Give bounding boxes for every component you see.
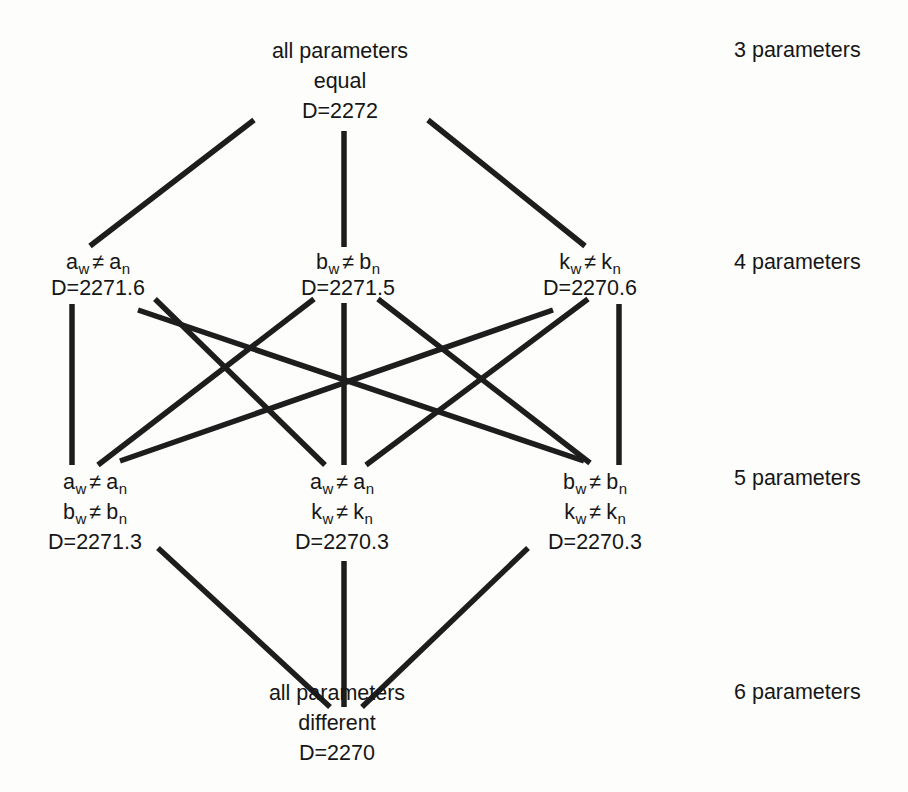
node-4param-k: kw≠kn D=2270.6 [543, 250, 637, 300]
edge-top-p4a [90, 120, 254, 246]
param-line: kw≠kn [543, 250, 637, 276]
deviance-value: D=2270.6 [543, 276, 637, 300]
row-label-5-parameters: 5 parameters [734, 466, 861, 490]
deviance-value: D=2271.3 [48, 528, 142, 556]
deviance-value: D=2270.3 [295, 528, 389, 556]
node-5param-ab: aw≠an bw≠bn D=2271.3 [48, 468, 142, 556]
model-lattice-diagram: all parameters equal D=2272 aw≠an D=2271… [0, 0, 908, 792]
param-line: aw≠an [48, 468, 142, 498]
row-label-4-parameters: 4 parameters [734, 250, 861, 274]
node-all-different: all parameters different D=2270 [269, 678, 405, 768]
not-equal-sign: ≠ [89, 500, 101, 524]
param-line: kw≠kn [548, 498, 642, 528]
param-line: aw≠an [295, 468, 389, 498]
deviance-value: D=2271.6 [51, 276, 145, 300]
deviance-value: D=2272 [272, 96, 408, 126]
node-4param-b: bw≠bn D=2271.5 [301, 250, 395, 300]
deviance-value: D=2270 [269, 738, 405, 768]
not-equal-sign: ≠ [342, 250, 354, 274]
not-equal-sign: ≠ [336, 500, 348, 524]
node-line: all parameters [272, 36, 408, 66]
deviance-value: D=2271.5 [301, 276, 395, 300]
not-equal-sign: ≠ [89, 470, 101, 494]
param-line: bw≠bn [48, 498, 142, 528]
node-line: all parameters [269, 678, 405, 708]
edge-p4k-p5ak [366, 299, 588, 465]
not-equal-sign: ≠ [584, 250, 596, 274]
node-line: different [269, 708, 405, 738]
not-equal-sign: ≠ [589, 470, 601, 494]
node-5param-ak: aw≠an kw≠kn D=2270.3 [295, 468, 389, 556]
edge-p4b-p5ab [98, 299, 314, 465]
not-equal-sign: ≠ [92, 250, 104, 274]
row-label-6-parameters: 6 parameters [734, 680, 861, 704]
node-4param-a: aw≠an D=2271.6 [51, 250, 145, 300]
param-line: bw≠bn [301, 250, 395, 276]
deviance-value: D=2270.3 [548, 528, 642, 556]
row-label-3-parameters: 3 parameters [734, 38, 861, 62]
param-line: aw≠an [51, 250, 145, 276]
param-line: bw≠bn [548, 468, 642, 498]
not-equal-sign: ≠ [589, 500, 601, 524]
not-equal-sign: ≠ [336, 470, 348, 494]
param-line: kw≠kn [295, 498, 389, 528]
node-5param-bk: bw≠bn kw≠kn D=2270.3 [548, 468, 642, 556]
node-all-equal: all parameters equal D=2272 [272, 36, 408, 126]
edge-top-p4k [428, 120, 585, 246]
lattice-edges [0, 0, 908, 792]
node-line: equal [272, 66, 408, 96]
